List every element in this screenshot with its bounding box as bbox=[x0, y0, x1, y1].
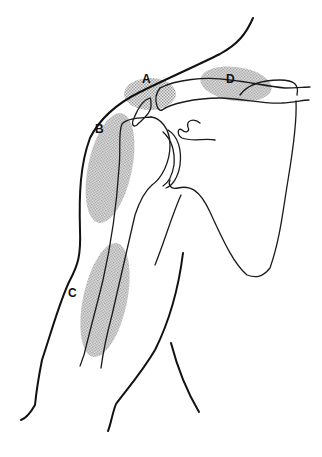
humerus-medial bbox=[155, 195, 181, 265]
label-a: A bbox=[142, 72, 151, 86]
region-b-shading bbox=[77, 109, 143, 228]
label-b: B bbox=[95, 122, 104, 136]
coracoid bbox=[178, 120, 215, 140]
label-c: C bbox=[68, 286, 77, 300]
shoulder-diagram: A B C D bbox=[0, 0, 322, 457]
label-d: D bbox=[226, 72, 235, 86]
trunk-outline bbox=[171, 343, 199, 412]
diagram-canvas: A B C D bbox=[0, 0, 322, 457]
